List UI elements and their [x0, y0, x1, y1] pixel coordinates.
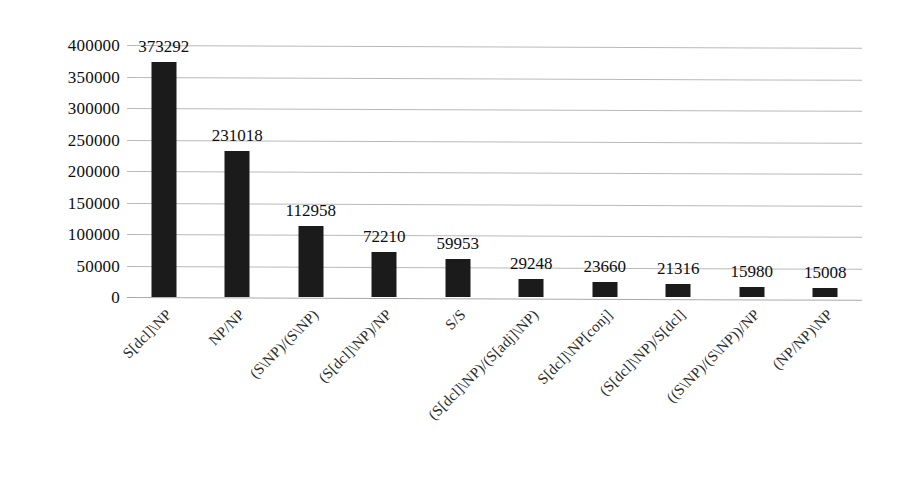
bar-value-label: 72210 [363, 228, 406, 245]
x-axis-tick: ((S\NP)/(S\NP))/NP [715, 303, 789, 478]
bar-group: 373292 [127, 45, 201, 297]
bar [519, 279, 544, 297]
gridline [127, 297, 862, 301]
bar-chart: 4000003500003000002500002000001500001000… [0, 0, 902, 484]
x-axis-tick: (S\NP)/(S\NP) [274, 303, 348, 478]
bar-group: 112958 [274, 45, 348, 297]
x-axis-tick: (S[dcl]\NP)/NP [348, 303, 422, 478]
bar-value-label: 21316 [657, 260, 700, 277]
x-axis-tick: (NP/NP)\NP [789, 303, 863, 478]
bar-value-label: 29248 [510, 255, 553, 272]
bar-group: 29248 [495, 45, 569, 297]
x-axis-tick: NP/NP [201, 303, 275, 478]
bar-group: 59953 [421, 45, 495, 297]
bar [445, 259, 470, 297]
bar-value-label: 112958 [286, 202, 336, 219]
plot-area: 3732922310181129587221059953292482366021… [127, 45, 862, 297]
bar-value-label: 15980 [731, 263, 774, 280]
bar [372, 252, 397, 297]
bar [592, 282, 617, 297]
y-axis-tick-label: 50000 [0, 258, 120, 275]
bar-group: 21316 [642, 45, 716, 297]
bar [151, 62, 176, 297]
y-axis-tick-label: 250000 [0, 132, 120, 149]
y-axis-tick-label: 350000 [0, 69, 120, 86]
bar-value-label: 15008 [804, 264, 847, 281]
x-axis-tick-label: NP/NP [206, 307, 247, 348]
x-axis-labels: S[dcl]\NPNP/NP(S\NP)/(S\NP)(S[dcl]\NP)/N… [127, 303, 862, 478]
bar [813, 288, 838, 297]
bar [666, 284, 691, 297]
bar [298, 226, 323, 297]
bar-value-label: 373292 [138, 38, 189, 55]
bar-value-label: 59953 [437, 235, 480, 252]
y-axis-tick-label: 200000 [0, 163, 120, 180]
bar-group: 15980 [715, 45, 789, 297]
bar-group: 231018 [201, 45, 275, 297]
bar-group: 15008 [789, 45, 863, 297]
bar-value-label: 23660 [584, 258, 627, 275]
y-axis-tick-label: 400000 [0, 37, 120, 54]
y-axis: 4000003500003000002500002000001500001000… [0, 45, 120, 297]
y-axis-tick-label: 100000 [0, 226, 120, 243]
bar [739, 287, 764, 297]
y-axis-tick-label: 150000 [0, 195, 120, 212]
x-axis-tick-label: S/S [443, 307, 469, 333]
y-axis-tick-label: 300000 [0, 100, 120, 117]
bar-group: 72210 [348, 45, 422, 297]
bar-group: 23660 [568, 45, 642, 297]
bar [225, 151, 250, 297]
x-axis-tick-label: S[dcl]\NP [120, 307, 174, 361]
bar-value-label: 231018 [212, 127, 263, 144]
x-axis-tick: (S[dcl]\NP)/(S[adj]\NP) [495, 303, 569, 478]
y-axis-tick-label: 0 [0, 289, 120, 306]
x-axis-tick: S[dcl]\NP [127, 303, 201, 478]
